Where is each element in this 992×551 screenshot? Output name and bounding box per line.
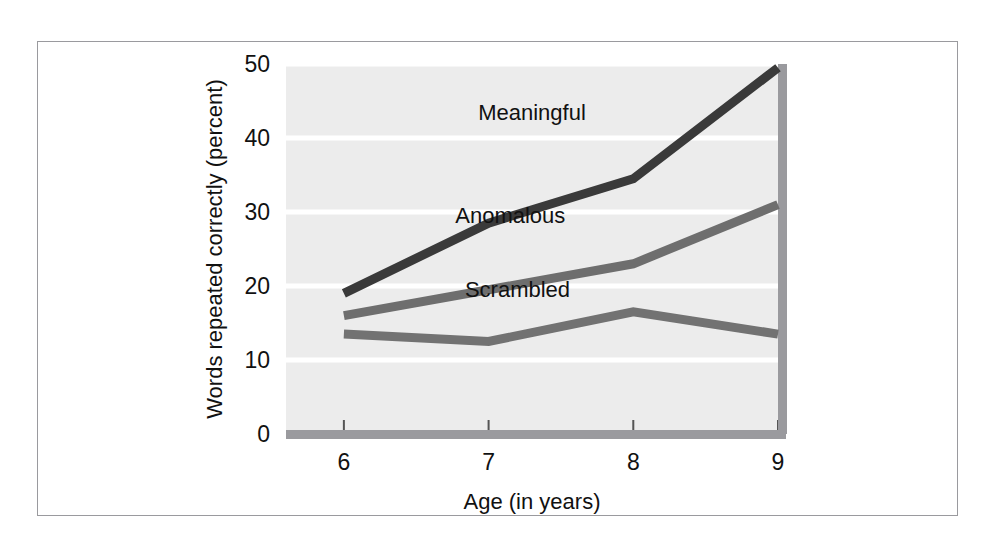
gridline (286, 62, 778, 67)
x-axis-tick-labels: 6789 (337, 449, 784, 475)
y-axis-tick-label: 40 (244, 125, 270, 151)
y-axis-tick-label: 50 (244, 51, 270, 77)
figure-container: 01020304050 6789 MeaningfulAnomalousScra… (0, 0, 992, 551)
x-axis-tick-label: 6 (337, 449, 350, 475)
y-axis-tick-label: 30 (244, 199, 270, 225)
gridline (286, 358, 778, 363)
y-axis-tick-label: 10 (244, 347, 270, 373)
series-label-meaningful: Meaningful (478, 100, 586, 125)
series-label-anomalous: Anomalous (455, 203, 565, 228)
x-axis-tick-label: 9 (772, 449, 785, 475)
right-axis-bar (778, 64, 787, 434)
y-axis-tick-label: 0 (257, 421, 270, 447)
y-axis-title: Words repeated correctly (percent) (202, 79, 227, 419)
y-axis-tick-label: 20 (244, 273, 270, 299)
y-axis-tick-labels: 01020304050 (244, 51, 270, 447)
x-axis-bar (286, 430, 786, 439)
x-axis-tick-label: 7 (482, 449, 495, 475)
x-axis-title: Age (in years) (464, 489, 601, 514)
x-axis-tick-label: 8 (627, 449, 640, 475)
series-label-scrambled: Scrambled (465, 277, 570, 302)
line-chart: 01020304050 6789 MeaningfulAnomalousScra… (0, 0, 992, 551)
chart-area: 01020304050 6789 MeaningfulAnomalousScra… (0, 0, 992, 551)
gridline (286, 136, 778, 141)
